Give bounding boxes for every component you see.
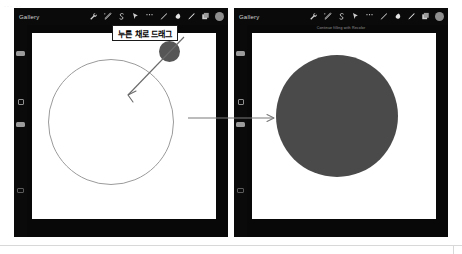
toolbar-right: Gallery — [234, 8, 448, 25]
adjustments-magic-icon[interactable] — [102, 11, 112, 22]
canvas-left[interactable] — [32, 33, 216, 219]
page-corner-mark — [453, 245, 462, 254]
undo-button[interactable] — [237, 188, 244, 193]
page-bottom-rule — [0, 245, 462, 246]
side-rail-left — [14, 25, 27, 237]
adjustments-wrench-icon[interactable] — [88, 11, 98, 22]
more-dots-icon[interactable] — [364, 11, 374, 22]
modify-square-button[interactable] — [18, 99, 24, 105]
page-root: ··· ·· Gallery — [0, 0, 462, 254]
filled-circle — [276, 55, 398, 177]
undo-button[interactable] — [17, 188, 24, 193]
toolbar-left: Gallery — [14, 8, 228, 25]
gallery-button[interactable]: Gallery — [239, 14, 259, 20]
brush-icon[interactable] — [378, 11, 388, 22]
smudge-icon[interactable] — [172, 11, 182, 22]
layers-icon[interactable] — [200, 11, 210, 22]
transform-arrow-icon[interactable] — [130, 11, 140, 22]
sub-caption-right: Continue filling with Recolor — [234, 26, 448, 31]
color-swatch-button[interactable] — [435, 12, 444, 21]
selection-s-icon[interactable] — [116, 11, 126, 22]
color-drag-dot[interactable] — [159, 41, 180, 62]
brush-size-slider[interactable] — [236, 51, 245, 56]
adjustments-wrench-icon[interactable] — [308, 11, 318, 22]
opacity-slider[interactable] — [16, 122, 25, 127]
side-rail-right — [234, 25, 247, 237]
smudge-icon[interactable] — [392, 11, 402, 22]
color-swatch-button[interactable] — [215, 12, 224, 21]
procreate-before-panel: Gallery — [14, 8, 228, 237]
opacity-slider[interactable] — [236, 122, 245, 127]
callout-text: 누른 채로 드래그 — [118, 28, 172, 39]
procreate-after-panel: Gallery — [234, 8, 448, 237]
adjustments-magic-icon[interactable] — [322, 11, 332, 22]
eraser-icon[interactable] — [186, 11, 196, 22]
gallery-button[interactable]: Gallery — [19, 14, 39, 20]
more-dots-icon[interactable] — [144, 11, 154, 22]
transform-arrow-icon[interactable] — [350, 11, 360, 22]
modify-square-button[interactable] — [238, 99, 244, 105]
canvas-right[interactable] — [252, 33, 436, 219]
selection-s-icon[interactable] — [336, 11, 346, 22]
press-and-drag-callout: 누른 채로 드래그 — [112, 25, 178, 41]
outline-circle — [48, 59, 174, 185]
brush-icon[interactable] — [158, 11, 168, 22]
layers-icon[interactable] — [420, 11, 430, 22]
eraser-icon[interactable] — [406, 11, 416, 22]
brush-size-slider[interactable] — [16, 51, 25, 56]
